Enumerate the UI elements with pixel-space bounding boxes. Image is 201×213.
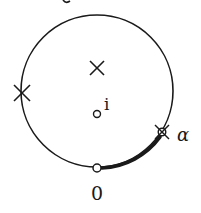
contour-circle — [21, 15, 173, 167]
cross-marker-interior — [90, 61, 104, 75]
label-zero: 0 — [91, 182, 103, 204]
point-i-marker — [94, 111, 101, 118]
point-zero-marker — [93, 164, 101, 172]
contour-diagram: i α 0 — [0, 0, 201, 213]
thick-arc-path — [102, 137, 160, 168]
label-i: i — [104, 94, 110, 114]
label-alpha: α — [177, 124, 189, 145]
point-alpha-marker — [155, 125, 169, 139]
cropped-glyph — [63, 0, 70, 2]
